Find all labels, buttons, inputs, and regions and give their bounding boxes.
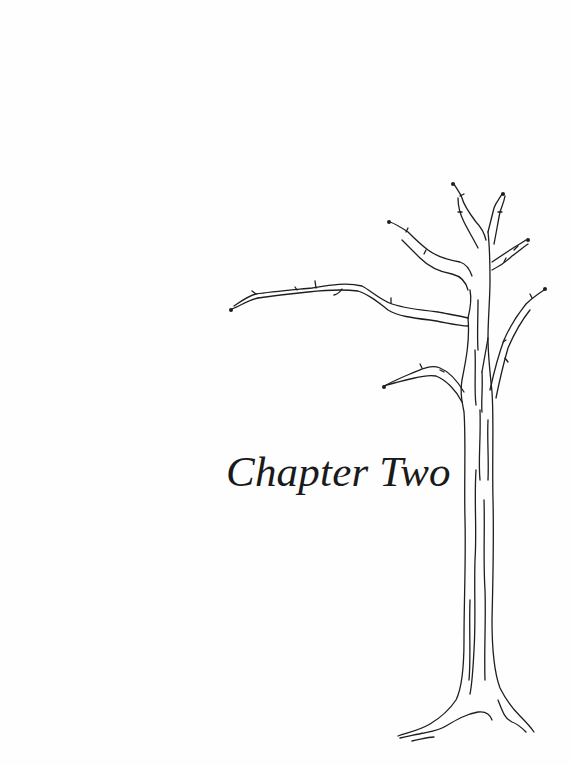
chapter-title: Chapter Two <box>226 446 451 498</box>
bare-tree-illustration <box>0 0 570 765</box>
chapter-opener-page: Chapter Two <box>0 0 570 765</box>
